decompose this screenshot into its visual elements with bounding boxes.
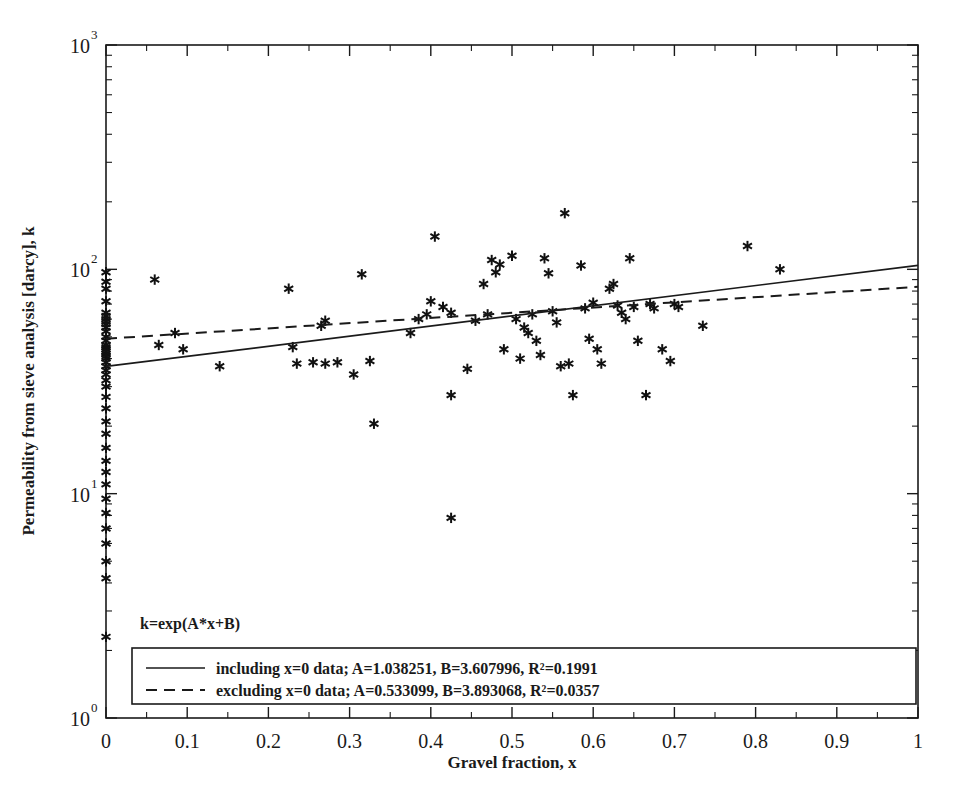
data-point xyxy=(102,632,111,642)
data-point xyxy=(102,296,111,306)
data-point xyxy=(102,283,111,293)
data-point xyxy=(698,321,707,331)
data-point xyxy=(552,317,561,327)
x-tick-label: 1 xyxy=(913,730,923,752)
data-point xyxy=(102,403,111,413)
y-axis-tick-labels: 100101102103 xyxy=(70,27,98,730)
data-point xyxy=(544,268,553,278)
x-axis-title: Gravel fraction, x xyxy=(448,753,577,772)
data-point xyxy=(641,390,650,400)
x-tick-label: 0.5 xyxy=(500,730,525,752)
data-point xyxy=(499,344,508,354)
data-point xyxy=(102,416,111,426)
data-point xyxy=(102,508,111,518)
data-point xyxy=(102,467,111,477)
y-tick-label: 10 xyxy=(70,708,90,730)
x-tick-label: 0.6 xyxy=(581,730,606,752)
data-point xyxy=(556,361,565,371)
data-point xyxy=(564,358,573,368)
legend-label-excluding-zero: excluding x=0 data; A=0.533099, B=3.8930… xyxy=(216,682,600,700)
data-point xyxy=(560,208,569,218)
y-tick-label: 10 xyxy=(70,35,90,57)
x-tick-label: 0.9 xyxy=(824,730,849,752)
data-point-markers xyxy=(102,208,785,642)
y-tick-label: 10 xyxy=(70,484,90,506)
data-point xyxy=(365,356,374,366)
data-point xyxy=(536,350,545,360)
data-point xyxy=(333,357,342,367)
data-point xyxy=(438,302,447,312)
data-point xyxy=(593,344,602,354)
data-point xyxy=(321,358,330,368)
x-tick-label: 0.3 xyxy=(337,730,362,752)
data-point xyxy=(508,251,517,261)
data-point xyxy=(625,253,634,263)
x-tick-label: 0.2 xyxy=(256,730,281,752)
data-point xyxy=(597,358,606,368)
data-point xyxy=(775,264,784,274)
data-point xyxy=(102,493,111,503)
legend: including x=0 data; A=1.038251, B=3.6079… xyxy=(132,648,916,704)
regression-fit-lines xyxy=(106,265,918,366)
data-point xyxy=(309,357,318,367)
fit-line-including-zero xyxy=(106,265,918,366)
data-point xyxy=(743,241,752,251)
chart-figure: 100101102103 00.10.20.30.40.50.60.70.80.… xyxy=(0,0,962,798)
y-tick-label-exponent: 0 xyxy=(91,700,98,715)
y-tick-label: 10 xyxy=(70,259,90,281)
x-axis-tick-labels: 00.10.20.30.40.50.60.70.80.91 xyxy=(101,730,923,752)
fit-line-excluding-zero xyxy=(106,287,918,339)
data-point xyxy=(463,364,472,374)
data-point xyxy=(349,369,358,379)
data-point xyxy=(102,456,111,466)
data-point xyxy=(171,328,180,338)
data-point xyxy=(357,269,366,279)
data-point xyxy=(426,296,435,306)
data-point xyxy=(479,279,488,289)
data-point xyxy=(577,260,586,270)
data-point xyxy=(102,392,111,402)
data-point xyxy=(585,334,594,344)
x-tick-label: 0.8 xyxy=(743,730,768,752)
x-tick-label: 0 xyxy=(101,730,111,752)
data-point xyxy=(516,353,525,363)
y-axis-title: Permeability from sieve analysis [darcy]… xyxy=(19,226,38,536)
y-tick-label-exponent: 3 xyxy=(91,27,98,42)
data-point xyxy=(430,231,439,241)
data-point xyxy=(447,513,456,523)
data-point xyxy=(150,274,159,284)
y-tick-label-exponent: 1 xyxy=(91,476,98,491)
data-point xyxy=(568,390,577,400)
scatter-plot-svg: 100101102103 00.10.20.30.40.50.60.70.80.… xyxy=(0,0,962,798)
data-point xyxy=(102,443,111,453)
data-point xyxy=(215,361,224,371)
data-point xyxy=(179,344,188,354)
equation-annotation: k=exp(A*x+B) xyxy=(140,615,240,633)
x-tick-label: 0.4 xyxy=(418,730,443,752)
x-tick-label: 0.7 xyxy=(662,730,687,752)
data-point xyxy=(102,573,111,583)
x-tick-label: 0.1 xyxy=(175,730,200,752)
data-point xyxy=(540,253,549,263)
data-point xyxy=(292,358,301,368)
data-point xyxy=(447,390,456,400)
data-point xyxy=(487,255,496,265)
data-point xyxy=(532,336,541,346)
data-point xyxy=(154,340,163,350)
data-point xyxy=(633,336,642,346)
legend-label-including-zero: including x=0 data; A=1.038251, B=3.6079… xyxy=(216,660,598,678)
data-point xyxy=(284,283,293,293)
data-point xyxy=(629,302,638,312)
data-point xyxy=(102,429,111,439)
data-point xyxy=(658,344,667,354)
data-point xyxy=(102,479,111,489)
y-tick-label-exponent: 2 xyxy=(91,251,98,266)
data-point xyxy=(369,419,378,429)
data-point xyxy=(666,356,675,366)
